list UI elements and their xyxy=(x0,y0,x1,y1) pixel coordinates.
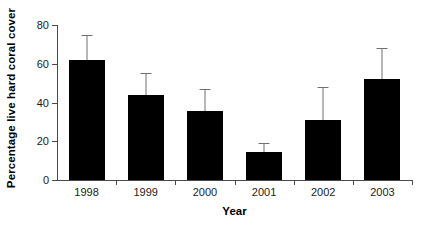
error-bar-stem xyxy=(145,73,146,94)
error-bar-cap xyxy=(199,89,210,90)
x-tick-mark xyxy=(235,180,236,185)
bar-slot: 2003 xyxy=(353,25,412,180)
bar-slot: 1999 xyxy=(116,25,175,180)
bar-slot: 2001 xyxy=(235,25,294,180)
y-tick-label: 80 xyxy=(37,20,49,31)
error-bar-stem xyxy=(382,48,383,79)
y-tick-mark xyxy=(52,180,57,181)
x-tick-mark xyxy=(294,180,295,185)
y-tick-label: 60 xyxy=(37,58,49,69)
y-axis-title: Percentage live hard coral cover xyxy=(5,8,17,188)
error-bar-stem xyxy=(323,87,324,120)
error-bar-stem xyxy=(86,35,87,60)
bar-slot: 2000 xyxy=(175,25,234,180)
error-bar-cap xyxy=(140,73,151,74)
x-tick-label: 2003 xyxy=(370,187,394,198)
y-tick-label: 0 xyxy=(43,175,49,186)
bar xyxy=(69,60,105,180)
x-axis-title: Year xyxy=(57,205,412,217)
x-tick-mark xyxy=(175,180,176,185)
bar-chart-figure: Percentage live hard coral cover 0204060… xyxy=(0,0,422,238)
error-bar-cap xyxy=(377,48,388,49)
error-bar-stem xyxy=(264,143,265,152)
x-tick-label: 2002 xyxy=(311,187,335,198)
bar xyxy=(246,152,282,180)
bar xyxy=(187,111,223,180)
bar xyxy=(305,120,341,180)
error-bar-stem xyxy=(204,89,205,111)
y-axis-title-container: Percentage live hard coral cover xyxy=(0,0,22,196)
bar xyxy=(128,95,164,180)
bar xyxy=(364,79,400,180)
y-tick-label: 20 xyxy=(37,136,49,147)
bar-slot: 1998 xyxy=(57,25,116,180)
bar-slot: 2002 xyxy=(294,25,353,180)
x-tick-mark xyxy=(412,180,413,185)
x-tick-label: 1999 xyxy=(133,187,157,198)
x-tick-label: 2000 xyxy=(193,187,217,198)
plot-area: 020406080 199819992000200120022003 xyxy=(57,25,412,180)
y-tick-label: 40 xyxy=(37,97,49,108)
x-tick-label: 2001 xyxy=(252,187,276,198)
x-tick-mark xyxy=(116,180,117,185)
error-bar-cap xyxy=(81,35,92,36)
error-bar-cap xyxy=(259,143,270,144)
x-tick-mark xyxy=(353,180,354,185)
x-tick-label: 1998 xyxy=(74,187,98,198)
error-bar-cap xyxy=(318,87,329,88)
